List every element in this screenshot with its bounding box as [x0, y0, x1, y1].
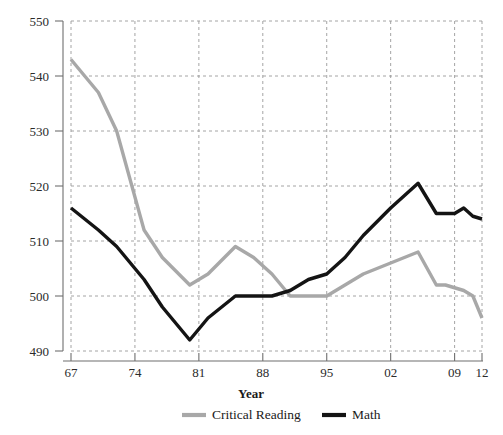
- y-tick-label: 510: [30, 234, 50, 249]
- line-chart: 490500510520530540550 6774818895020912 Y…: [0, 0, 503, 435]
- x-tick-label: 88: [256, 365, 269, 380]
- legend-label-critical-reading: Critical Reading: [212, 407, 301, 422]
- x-axis-title: Year: [238, 386, 264, 401]
- y-tick-label: 540: [30, 69, 50, 84]
- x-tick-label: 81: [192, 365, 205, 380]
- x-tick-label: 95: [320, 365, 333, 380]
- y-tick-label: 550: [30, 14, 50, 29]
- x-tick-label: 67: [65, 365, 79, 380]
- x-tick-label: 74: [128, 365, 142, 380]
- x-tick-label: 02: [384, 365, 397, 380]
- chart-canvas: 490500510520530540550 6774818895020912 Y…: [0, 0, 503, 435]
- y-tick-label: 490: [30, 344, 50, 359]
- series-layer: [71, 60, 482, 341]
- series-line-math: [71, 183, 482, 340]
- y-tick-label: 520: [30, 179, 50, 194]
- y-tick-label: 500: [30, 289, 50, 304]
- legend-label-math: Math: [352, 407, 381, 422]
- y-axis: 490500510520530540550: [30, 14, 64, 359]
- legend: Critical ReadingMath: [182, 407, 381, 422]
- y-tick-label: 530: [30, 124, 50, 139]
- x-tick-label: 09: [448, 365, 461, 380]
- x-tick-label: 12: [476, 365, 489, 380]
- x-axis: 6774818895020912: [63, 353, 489, 380]
